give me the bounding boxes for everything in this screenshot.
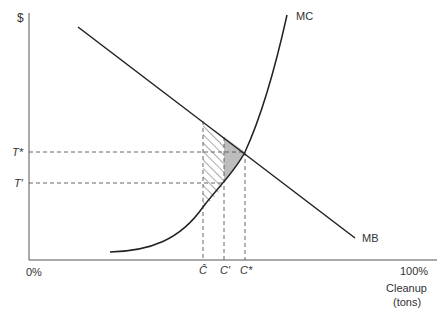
- y-axis-label: $: [17, 12, 24, 24]
- mc-curve: [110, 15, 287, 252]
- t-star-label: T*: [12, 147, 23, 158]
- c-hat-label: Ĉ: [199, 265, 207, 276]
- mb-curve: [78, 27, 355, 238]
- x-axis-label-line2: (tons): [393, 297, 421, 308]
- mc-label: MC: [296, 11, 313, 22]
- mb-label: MB: [362, 233, 379, 244]
- t-prime-label: T′: [14, 178, 23, 189]
- x-axis-label-line1: Cleanup: [386, 283, 427, 294]
- marginal-cost-benefit-diagram: [0, 0, 437, 315]
- shaded-region: [224, 137, 245, 183]
- c-prime-label: C′: [220, 265, 230, 276]
- c-star-label: C*: [240, 265, 252, 276]
- x-max-label: 100%: [400, 266, 428, 277]
- x-min-label: 0%: [26, 267, 42, 278]
